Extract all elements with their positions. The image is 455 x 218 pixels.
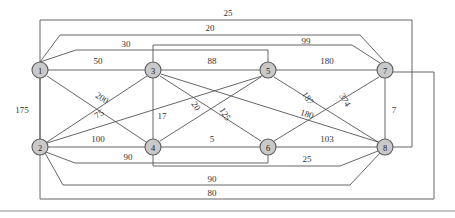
edge-weight-label: 25 <box>224 8 234 18</box>
edge-weight-label: 88 <box>208 56 218 66</box>
node-label: 5 <box>266 66 270 76</box>
graph-node[interactable]: 8 <box>377 139 393 155</box>
node-label: 6 <box>266 143 270 153</box>
graph-node[interactable]: 6 <box>260 139 276 155</box>
node-label: 8 <box>383 143 387 153</box>
edge-weight-label: 80 <box>208 188 218 198</box>
edge-weight-label: 200 <box>94 90 111 106</box>
graph-node[interactable]: 1 <box>32 62 48 78</box>
edge-weights-group: 2520305020017588991801873747751001720125… <box>15 8 397 198</box>
node-label: 7 <box>383 66 387 76</box>
edge-weight-label: 5 <box>210 134 215 144</box>
graph-edge <box>47 76 262 143</box>
edge-weight-label: 90 <box>208 174 218 184</box>
edge-weight-label: 180 <box>299 107 315 121</box>
edge-weight-label: 17 <box>158 111 168 121</box>
edge-weight-label: 20 <box>189 100 203 113</box>
graph-node[interactable]: 5 <box>260 62 276 78</box>
graph-node[interactable]: 4 <box>145 139 161 155</box>
edge-weight-label: 125 <box>217 106 233 123</box>
edge-weight-label: 90 <box>124 152 134 162</box>
edge-weight-label: 20 <box>206 23 216 33</box>
graph-edge <box>153 45 380 63</box>
edge-weight-label: 50 <box>94 56 104 66</box>
edge-weight-label: 30 <box>122 39 132 49</box>
graph-node[interactable]: 3 <box>145 62 161 78</box>
node-label: 3 <box>151 66 155 76</box>
edge-weight-label: 100 <box>91 134 105 144</box>
edge-weight-label: 187 <box>300 90 316 107</box>
edge-weight-label: 99 <box>302 36 312 46</box>
node-label: 2 <box>38 143 42 153</box>
graph-node[interactable]: 2 <box>32 139 48 155</box>
graph-figure: 2520305020017588991801873747751001720125… <box>0 0 455 218</box>
network-graph-canvas: 2520305020017588991801873747751001720125… <box>0 0 455 218</box>
graph-node[interactable]: 7 <box>377 62 393 78</box>
edge-weight-label: 175 <box>15 105 29 115</box>
edge-weight-label: 180 <box>320 56 334 66</box>
graph-edge <box>40 50 268 62</box>
edge-weight-label: 7 <box>392 105 397 115</box>
edge-weight-label: 103 <box>320 134 334 144</box>
node-label: 1 <box>38 66 42 76</box>
edge-weight-label: 75 <box>93 107 106 121</box>
edge-weight-label: 25 <box>303 154 313 164</box>
